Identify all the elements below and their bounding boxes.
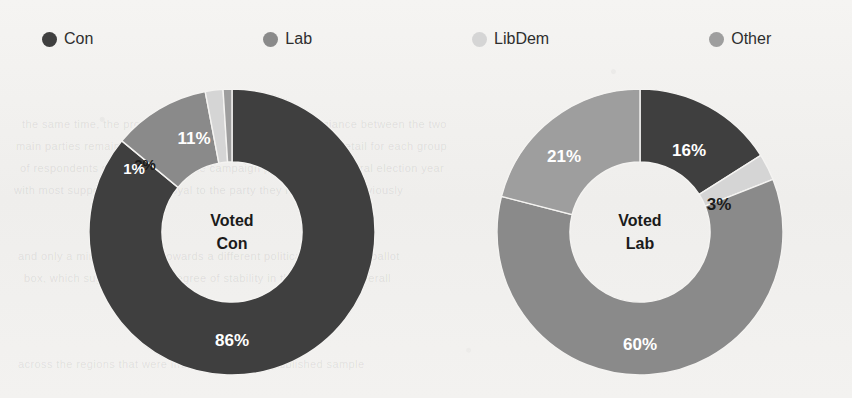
- donut-chart-voted-lab: Voted Lab 16% 3% 60% 21%: [497, 89, 783, 375]
- donut-slice-lab[interactable]: [497, 179, 783, 375]
- donut-slices-voted-lab: [497, 89, 783, 375]
- donut-slices-voted-con: [89, 89, 375, 375]
- charts-area: Voted Con 86% 11% 2% 1% Voted Lab 16% 3%…: [0, 0, 852, 398]
- donut-slice-other[interactable]: [501, 89, 640, 215]
- donut-svg-voted-con: [89, 89, 375, 375]
- donut-svg-voted-lab: [497, 89, 783, 375]
- donut-chart-voted-con: Voted Con 86% 11% 2% 1%: [89, 89, 375, 375]
